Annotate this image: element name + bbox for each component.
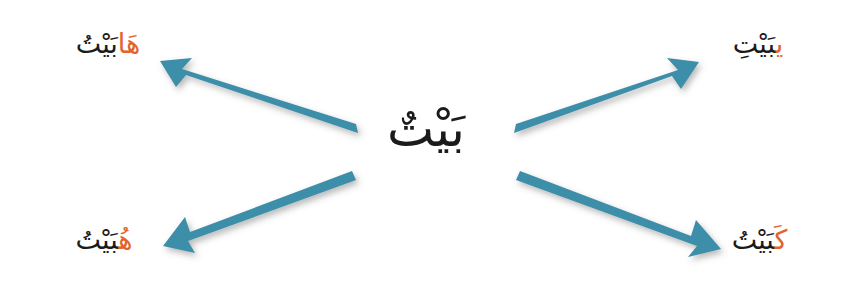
center-word-bayt: بَيْتٌ (0, 96, 852, 164)
branch-suffix-bottom-left: هُ (118, 224, 132, 255)
branch-stem-top-right: بَيْتِ (733, 28, 776, 59)
branch-suffix-top-left: هَا (118, 28, 140, 59)
branch-word-bottom-right: كَبَيْتُ (677, 222, 842, 258)
branch-word-bottom-left: هُبَيْتُ (14, 222, 194, 258)
branch-stem-bottom-left: بَيْتُ (75, 224, 118, 255)
branch-word-top-left: هَابَيْتُ (18, 26, 198, 62)
diagram-canvas: بَيْتٌ هَابَيْتُ يبَيْتِ هُبَيْتُ كَبَيْ… (0, 0, 852, 292)
center-word-text: بَيْتٌ (387, 100, 465, 158)
branch-suffix-bottom-right: كَ (774, 224, 787, 255)
branch-stem-bottom-right: بَيْتُ (732, 224, 775, 255)
branch-stem-top-left: بَيْتُ (76, 28, 118, 59)
branch-suffix-top-right: ي (776, 28, 784, 59)
branch-word-top-right: يبَيْتِ (678, 26, 838, 62)
